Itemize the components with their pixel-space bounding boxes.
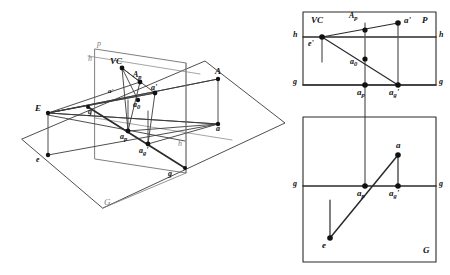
figure-vector-layer [0, 0, 450, 275]
label-g-right-panel-g: g [439, 180, 443, 188]
panel-p-verticals [322, 23, 398, 85]
label-g-right-panel-p: g [439, 78, 443, 86]
label-g-left-panel-g: g [293, 180, 297, 188]
horizon-line-pictorial [88, 56, 232, 140]
label-Ap-panel-p: Ap [349, 12, 358, 22]
node-ap-panel-p [362, 82, 368, 88]
label-VC-pictorial: VC [110, 57, 122, 66]
label-g-right-pictorial: g [168, 170, 172, 178]
node-E [46, 111, 50, 115]
node-e [46, 153, 50, 157]
node-VC [120, 66, 125, 71]
label-ap-panel-p: ap [357, 88, 365, 99]
label-ag-prime-panel-g: ag' [389, 189, 399, 200]
node-e-panel-g [327, 235, 333, 241]
node-g-right-pictorial [183, 166, 187, 170]
label-ap-pictorial: ap [120, 133, 127, 143]
node-VC-panel-p [319, 34, 325, 40]
label-a-prime-panel-p: a' [404, 16, 411, 25]
label-ap-panel-g: ap [357, 189, 365, 200]
label-Ap-pictorial: Ap [133, 71, 142, 81]
label-ag-prime-pictorial: ag' [139, 147, 148, 157]
node-A [216, 77, 220, 81]
label-a0-pictorial: a0 [133, 101, 140, 111]
label-a-prime-pictorial: a' [151, 84, 157, 92]
label-h-upper-pictorial: h [88, 55, 92, 63]
label-p-pictorial: p [97, 40, 101, 48]
label-e-prime-panel-p: e' [308, 40, 314, 48]
node-a0-panel-p [362, 56, 367, 61]
label-a: a [216, 125, 220, 133]
label-a-quote-pictorial: a' [108, 88, 113, 95]
node-ap-panel-g [362, 183, 368, 189]
label-e-panel-g: e [322, 241, 326, 250]
node-Ap-panel-p [362, 27, 367, 32]
label-h-lower-pictorial: h [178, 140, 182, 148]
label-g-left-pictorial: g [88, 108, 92, 116]
label-h-left-panel-p: h [293, 31, 297, 39]
panel-p-rays [322, 23, 398, 85]
label-e: e [36, 156, 40, 164]
label-A: A [215, 67, 221, 76]
node-a-panel-g [395, 152, 401, 158]
label-E: E [35, 104, 41, 113]
node-a-prime-panel-p [395, 20, 401, 26]
label-g-left-panel-p: g [293, 78, 297, 86]
label-a-panel-g: a [396, 141, 401, 150]
label-P-corner: P [422, 16, 428, 25]
point-connectors [128, 82, 218, 144]
label-G-corner: G [423, 246, 430, 255]
label-ag-prime-panel-p: ag' [389, 88, 399, 99]
label-h-right-panel-p: h [439, 31, 443, 39]
label-VC-panel-p: VC [311, 16, 323, 25]
figure-canvas: E e A a VC Ap a' a' a0 ap ag' g g p h h … [0, 0, 450, 275]
label-a0-panel-p: a0 [350, 58, 357, 68]
label-G-pictorial: G [104, 198, 111, 207]
